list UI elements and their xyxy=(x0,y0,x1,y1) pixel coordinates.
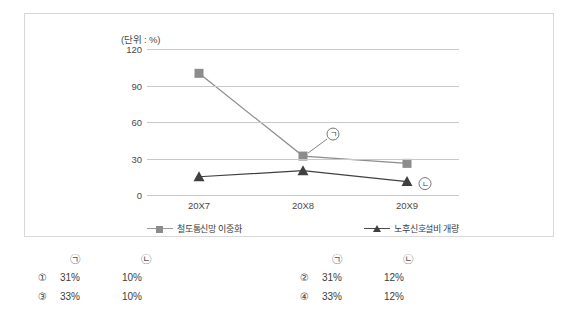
y-axis-tick-label: 60 xyxy=(131,117,142,128)
annotation-label-1: ㄱ xyxy=(330,130,337,139)
answer-header-right: ㉠ ㉡ xyxy=(300,248,453,268)
answer-option-3[interactable]: ③ 33% 10% xyxy=(38,287,191,306)
x-axis-labels: 20X720X820X9 xyxy=(147,200,459,214)
answer-option-2[interactable]: ② 31% 12% xyxy=(300,268,453,287)
answer-header-left: ㉠ ㉡ xyxy=(38,248,191,268)
chart-container: (단위 : %) ㄱㄴ 1209060300 20X720X820X9 철도통신… xyxy=(24,13,554,237)
answer-header-second: ㉡ xyxy=(394,251,453,266)
series-line-1 xyxy=(199,73,407,163)
legend-label-series-1: 철도통신망 이중화 xyxy=(177,222,242,235)
answer-value-first: 33% xyxy=(60,291,122,302)
answer-column-right: ㉠ ㉡ ② 31% 12% ④ 33% 12% xyxy=(300,248,453,306)
answer-number: ③ xyxy=(38,291,60,302)
legend-triangle-marker-icon xyxy=(364,224,390,233)
answer-value-second: 12% xyxy=(384,272,434,283)
answer-value-second: 12% xyxy=(384,291,434,302)
x-axis-tick-label: 20X9 xyxy=(396,200,418,211)
answer-value-second: 10% xyxy=(122,272,172,283)
answer-number: ④ xyxy=(300,291,322,302)
answer-header-first: ㉠ xyxy=(322,251,394,266)
answer-header-second: ㉡ xyxy=(132,251,191,266)
answer-value-first: 33% xyxy=(322,291,384,302)
answer-value-first: 31% xyxy=(322,272,384,283)
answer-options: ㉠ ㉡ ① 31% 10% ③ 33% 10% ㉠ ㉡ ② 31% 12% ④ … xyxy=(0,248,575,317)
answer-option-1[interactable]: ① 31% 10% xyxy=(38,268,191,287)
legend-item-series-1: 철도통신망 이중화 xyxy=(147,222,242,235)
y-axis-tick-label: 0 xyxy=(137,190,142,201)
answer-value-second: 10% xyxy=(122,291,172,302)
x-axis-tick-label: 20X8 xyxy=(292,200,314,211)
answer-option-4[interactable]: ④ 33% 12% xyxy=(300,287,453,306)
annotation-leader-line xyxy=(308,139,327,153)
gridline: 90 xyxy=(147,86,459,87)
y-axis-tick-label: 120 xyxy=(126,44,142,55)
annotation-label-2: ㄴ xyxy=(422,180,429,189)
data-point-marker xyxy=(195,69,204,78)
gridline: 60 xyxy=(147,122,459,123)
gridline: 120 xyxy=(147,49,459,50)
chart-legend: 철도통신망 이중화 노후신호설비 개량 xyxy=(147,222,459,235)
answer-value-first: 31% xyxy=(60,272,122,283)
gridline: 0 xyxy=(147,195,459,196)
answer-number: ① xyxy=(38,272,60,283)
data-point-marker xyxy=(403,159,412,168)
legend-label-series-2: 노후신호설비 개량 xyxy=(394,222,459,235)
data-point-marker xyxy=(298,165,309,175)
x-axis-tick-label: 20X7 xyxy=(188,200,210,211)
answer-column-left: ㉠ ㉡ ① 31% 10% ③ 33% 10% xyxy=(38,248,191,306)
answer-header-first: ㉠ xyxy=(60,251,132,266)
legend-square-marker-icon xyxy=(147,224,173,233)
plot-area: ㄱㄴ 1209060300 xyxy=(147,49,459,195)
y-axis-tick-label: 30 xyxy=(131,153,142,164)
y-axis-tick-label: 90 xyxy=(131,80,142,91)
legend-item-series-2: 노후신호설비 개량 xyxy=(364,222,459,235)
gridline: 30 xyxy=(147,159,459,160)
answer-number: ② xyxy=(300,272,322,283)
